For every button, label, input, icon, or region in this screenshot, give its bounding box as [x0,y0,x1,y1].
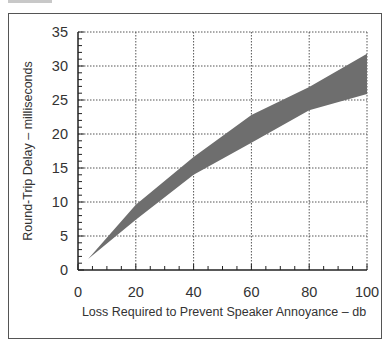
x-tick-label: 60 [243,284,259,300]
y-tick-label: 25 [52,92,68,108]
y-tick-label: 20 [52,126,68,142]
x-tick-label: 40 [186,284,202,300]
y-tick-label: 30 [52,58,68,74]
x-axis-label: Loss Required to Prevent Speaker Annoyan… [82,305,366,319]
x-tick-label: 0 [74,284,82,300]
x-tick-label: 100 [355,284,379,300]
y-tick-label: 10 [52,194,68,210]
y-tick-label: 15 [52,160,68,176]
chart: 05101520253035020406080100 Loss Required… [0,0,392,342]
y-tick-label: 5 [60,228,68,244]
x-tick-label: 20 [128,284,144,300]
y-axis-label: Round-Trip Delay – milliseconds [21,61,35,240]
x-tick-label: 80 [301,284,317,300]
y-tick-label: 35 [52,24,68,40]
y-tick-label: 0 [60,262,68,278]
delay-band [88,54,367,259]
